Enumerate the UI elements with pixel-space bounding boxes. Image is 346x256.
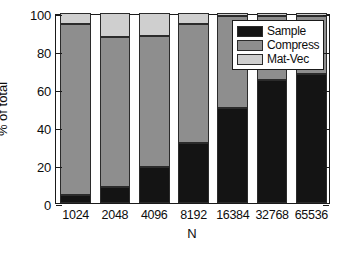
legend-swatch-sample — [237, 26, 263, 37]
bar-2048 — [100, 13, 131, 203]
x-tick-label-32768: 32768 — [255, 208, 288, 222]
legend-item-sample: Sample — [237, 24, 319, 38]
bar-segment-mat-vec-32768 — [257, 13, 288, 16]
y-tick-20 — [56, 167, 62, 168]
y-tick-60 — [56, 91, 62, 92]
x-tick-label-4096: 4096 — [141, 208, 168, 222]
y-axis-title: % of total — [0, 82, 10, 136]
bar-segment-compress-2048 — [100, 37, 131, 187]
y-tick-label-20: 20 — [37, 160, 51, 175]
y-tick-label-80: 80 — [37, 46, 51, 61]
y-tick-80 — [56, 53, 62, 54]
legend-swatch-compress — [237, 40, 263, 51]
bar-segment-mat-vec-1024 — [60, 13, 91, 24]
legend-item-compress: Compress — [237, 38, 319, 52]
bar-1024 — [60, 13, 91, 203]
bar-segment-sample-4096 — [139, 167, 170, 203]
bar-segment-compress-1024 — [60, 24, 91, 195]
chart-legend: Sample Compress Mat-Vec — [232, 20, 324, 70]
legend-item-matvec: Mat-Vec — [237, 52, 319, 66]
bar-segment-mat-vec-8192 — [178, 13, 209, 24]
bar-segment-mat-vec-2048 — [100, 13, 131, 37]
y-tick-right-20 — [323, 167, 329, 168]
legend-swatch-matvec — [237, 54, 263, 65]
y-tick-40 — [56, 129, 62, 130]
x-tick-label-16384: 16384 — [216, 208, 249, 222]
bar-segment-sample-65536 — [296, 74, 327, 203]
bar-segment-sample-16384 — [217, 108, 248, 203]
bar-segment-mat-vec-16384 — [217, 13, 248, 16]
bar-8192 — [178, 13, 209, 203]
x-tick-label-8192: 8192 — [180, 208, 207, 222]
y-tick-label-100: 100 — [30, 8, 51, 23]
y-tick-right-40 — [323, 129, 329, 130]
bar-segment-mat-vec-4096 — [139, 13, 170, 36]
y-tick-100 — [56, 15, 62, 16]
bar-4096 — [139, 13, 170, 203]
bar-segment-sample-1024 — [60, 195, 91, 203]
y-tick-label-0: 0 — [44, 198, 51, 213]
y-tick-right-0 — [323, 205, 329, 206]
legend-label-sample: Sample — [267, 25, 306, 37]
y-tick-label-60: 60 — [37, 84, 51, 99]
y-tick-right-60 — [323, 91, 329, 92]
stacked-bar-chart-figure: % of total N 020406080100 10242048409681… — [0, 0, 346, 256]
legend-label-compress: Compress — [267, 39, 319, 51]
bar-segment-sample-8192 — [178, 143, 209, 203]
legend-label-matvec: Mat-Vec — [267, 53, 309, 65]
bar-segment-compress-4096 — [139, 36, 170, 167]
bar-segment-sample-2048 — [100, 187, 131, 203]
bar-segment-sample-32768 — [257, 80, 288, 203]
y-tick-right-100 — [323, 15, 329, 16]
x-tick-label-2048: 2048 — [102, 208, 129, 222]
x-tick-label-65536: 65536 — [295, 208, 328, 222]
x-axis-title: N — [187, 226, 196, 241]
x-tick-label-1024: 1024 — [62, 208, 89, 222]
bar-segment-compress-8192 — [178, 24, 209, 143]
y-tick-label-40: 40 — [37, 122, 51, 137]
y-tick-0 — [56, 205, 62, 206]
